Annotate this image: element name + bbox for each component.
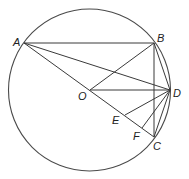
label-E: E [112, 114, 120, 126]
geometry-diagram: A B C D O E F [0, 0, 189, 179]
point-labels: A B C D O E F [12, 32, 181, 152]
label-A: A [12, 36, 20, 48]
segments [24, 43, 170, 137]
segment-AD [24, 43, 170, 90]
segment-OB [90, 43, 154, 90]
segment-DF [142, 90, 170, 128]
label-F: F [133, 130, 141, 142]
label-B: B [157, 32, 164, 44]
label-D: D [173, 87, 181, 99]
segment-BD [154, 43, 170, 90]
label-C: C [153, 140, 161, 152]
label-O: O [78, 90, 87, 102]
